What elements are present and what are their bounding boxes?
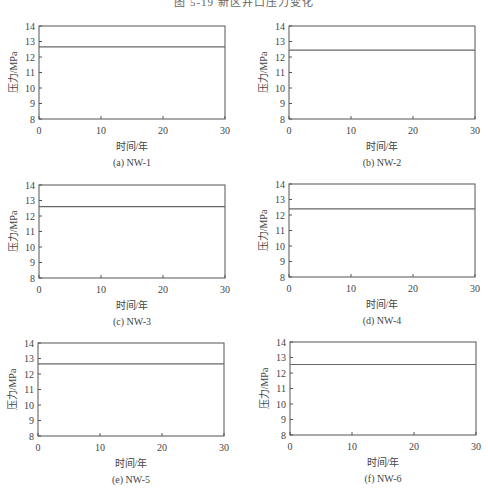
x-tick-label: 10 (347, 441, 357, 452)
y-tick-label: 13 (276, 352, 286, 363)
y-tick-label: 11 (276, 383, 286, 394)
y-tick-label: 12 (276, 368, 286, 379)
y-tick-label: 9 (281, 414, 286, 425)
subfigure-caption: (f) NW-6 (365, 473, 402, 485)
x-tick-label: 0 (288, 441, 293, 452)
y-tick-label: 8 (281, 430, 286, 441)
plot-frame (290, 342, 476, 435)
y-tick-label: 14 (276, 337, 286, 348)
x-tick-label: 20 (409, 441, 419, 452)
y-axis-label: 压力/MPa (258, 367, 270, 409)
x-axis-label: 时间/年 (367, 456, 400, 468)
chart-panel-f: 8910111213140102030压力/MPa时间/年(f) NW-6 (0, 0, 244, 160)
chart-f: 8910111213140102030压力/MPa时间/年(f) NW-6 (0, 0, 488, 493)
x-tick-label: 30 (471, 441, 481, 452)
y-tick-label: 10 (276, 399, 286, 410)
